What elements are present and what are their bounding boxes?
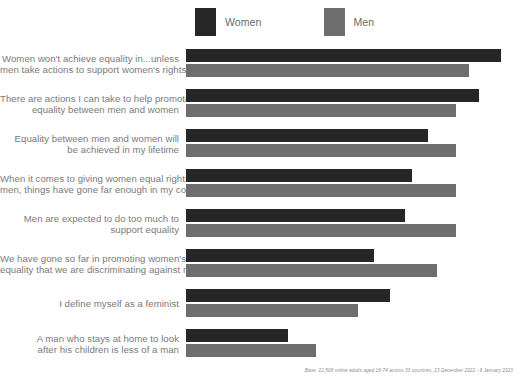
category-label-line: Men are expected to do too much to: [0, 213, 179, 224]
legend-item-men: Men: [324, 8, 375, 36]
chart-row: There are actions I can take to help pro…: [0, 84, 517, 124]
chart-row: I define myself as a feminist: [0, 284, 517, 324]
category-label-line: equality that we are discriminating agai…: [0, 264, 179, 275]
legend-swatch-men: [324, 8, 345, 36]
category-label: We have gone so far in promoting women's…: [0, 253, 186, 276]
bar-women: [186, 49, 501, 62]
bar-group: [186, 329, 510, 359]
bar-men: [186, 64, 469, 77]
chart-row: Women won't achieve equality in...unless…: [0, 44, 517, 84]
category-label: When it comes to giving women equal righ…: [0, 173, 186, 196]
legend-swatch-women: [195, 8, 216, 36]
category-label-line: support equality: [0, 224, 179, 235]
bar-chart: Women Men Women won't achieve equality i…: [0, 0, 517, 380]
chart-row: We have gone so far in promoting women's…: [0, 244, 517, 284]
category-label: A man who stays at home to lookafter his…: [0, 333, 186, 356]
bar-women: [186, 329, 288, 342]
legend-label-women: Women: [225, 16, 262, 28]
category-label-line: equality between men and women: [0, 104, 179, 115]
category-label: Equality between men and women willbe ac…: [0, 133, 186, 156]
category-label-line: men take actions to support women's righ…: [0, 64, 179, 75]
category-label-line: men, things have gone far enough in my c…: [0, 184, 179, 195]
chart-legend: Women Men: [195, 8, 374, 36]
chart-row: Equality between men and women willbe ac…: [0, 124, 517, 164]
bar-women: [186, 249, 374, 262]
category-label: I define myself as a feminist: [0, 298, 186, 309]
bar-men: [186, 344, 316, 357]
bar-women: [186, 289, 390, 302]
chart-row: A man who stays at home to lookafter his…: [0, 324, 517, 364]
chart-row: When it comes to giving women equal righ…: [0, 164, 517, 204]
category-label-line: after his children is less of a man: [0, 344, 179, 355]
bar-men: [186, 224, 456, 237]
category-label-line: There are actions I can take to help pro…: [0, 93, 179, 104]
category-label-line: Equality between men and women will: [0, 133, 179, 144]
category-label-line: Women won't achieve equality in...unless: [0, 53, 179, 64]
chart-row: Men are expected to do too much tosuppor…: [0, 204, 517, 244]
bar-women: [186, 169, 412, 182]
category-label: There are actions I can take to help pro…: [0, 93, 186, 116]
legend-label-men: Men: [354, 16, 375, 28]
bar-men: [186, 264, 437, 277]
chart-footnote: Base: 22,508 online adults aged 16-74 ac…: [0, 368, 513, 373]
bar-group: [186, 129, 510, 159]
category-label: Men are expected to do too much tosuppor…: [0, 213, 186, 236]
bar-men: [186, 104, 456, 117]
bar-men: [186, 304, 358, 317]
category-label-line: be achieved in my lifetime: [0, 144, 179, 155]
category-label-line: A man who stays at home to look: [0, 333, 179, 344]
category-label-line: When it comes to giving women equal righ…: [0, 173, 179, 184]
category-label: Women won't achieve equality in...unless…: [0, 53, 186, 76]
category-label-line: We have gone so far in promoting women's: [0, 253, 179, 264]
bar-women: [186, 89, 479, 102]
bar-group: [186, 89, 510, 119]
bar-group: [186, 169, 510, 199]
legend-item-women: Women: [195, 8, 262, 36]
bar-women: [186, 209, 405, 222]
bar-group: [186, 249, 510, 279]
bar-group: [186, 49, 510, 79]
category-label-line: I define myself as a feminist: [0, 298, 179, 309]
bar-group: [186, 209, 510, 239]
bar-women: [186, 129, 428, 142]
plot-area: Women won't achieve equality in...unless…: [0, 44, 517, 364]
bar-men: [186, 184, 456, 197]
bar-group: [186, 289, 510, 319]
bar-men: [186, 144, 456, 157]
